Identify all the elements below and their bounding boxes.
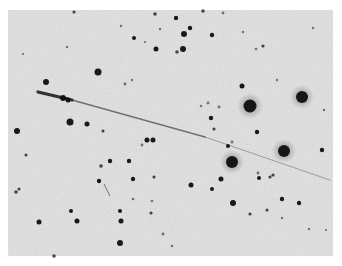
star [218,106,221,109]
star [268,175,271,178]
star [174,16,178,20]
star [171,245,173,247]
star [151,138,156,143]
star [244,100,257,113]
star [151,200,154,203]
star [118,209,122,213]
star [37,220,42,225]
star [226,156,238,168]
star [14,190,18,194]
star [212,127,215,130]
star [209,116,213,120]
star [255,48,258,51]
star [320,148,324,152]
star [99,164,103,168]
star [120,25,122,27]
star [108,159,112,163]
star [266,209,269,212]
star [240,84,245,89]
star [132,36,136,40]
star [257,176,261,180]
star [72,10,75,13]
star [152,175,155,178]
star [149,211,152,214]
star [219,177,224,182]
star [201,9,205,13]
star [278,145,290,157]
star [131,177,135,181]
photo-frame [0,0,342,266]
star [97,179,101,183]
star [325,229,327,231]
star [25,154,28,157]
star [210,187,214,191]
star [276,79,278,81]
star [14,128,20,134]
star [280,197,284,201]
star [308,228,310,230]
star [132,198,135,201]
star [85,122,90,127]
star [124,83,127,86]
star [248,212,251,215]
star [144,41,146,43]
star [127,159,131,163]
star [162,233,165,236]
star [145,138,150,143]
star [131,79,133,81]
star [66,98,71,103]
star [181,31,187,37]
star-field-image [0,0,342,266]
star [231,141,234,144]
star [95,69,102,76]
star [22,53,24,55]
star [141,144,144,147]
star [188,26,192,30]
star [271,173,274,176]
star [222,12,225,15]
star [69,209,73,213]
star [153,12,157,16]
star [117,240,123,246]
star [312,27,314,29]
star [52,254,56,258]
star [18,188,21,191]
star [281,217,283,219]
sky-grain [8,10,333,256]
star [200,105,202,107]
star [242,31,244,33]
star [296,91,308,103]
star [207,102,210,105]
star [297,201,301,205]
star [180,46,186,52]
star [210,33,214,37]
star [159,28,161,30]
star [230,200,236,206]
star [261,44,264,47]
star [154,47,159,52]
star [175,50,179,54]
star [226,144,230,148]
star [75,219,80,224]
star [60,95,66,101]
star [102,130,105,133]
star [119,219,124,224]
star [189,183,194,188]
star [255,130,259,134]
star [43,79,49,85]
star [323,109,325,111]
star [257,172,260,175]
star [67,119,74,126]
star [66,46,68,48]
